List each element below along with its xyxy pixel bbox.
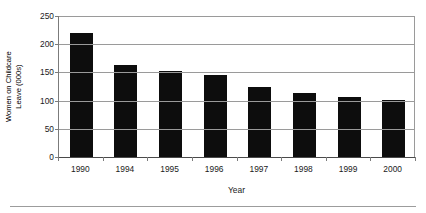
x-axis-tick-label: 1995	[147, 165, 193, 173]
x-axis-tick	[103, 157, 104, 161]
x-axis-tick-label: 1998	[280, 165, 326, 173]
y-axis-tick-label: 250	[20, 12, 54, 20]
y-axis-tick-label: 100	[20, 97, 54, 105]
y-axis-tick-label: 50	[20, 125, 54, 133]
y-axis-title-line-2: Leave (000s)	[13, 52, 23, 123]
y-axis-tick	[55, 129, 59, 130]
x-axis-tick-label: 1997	[236, 165, 282, 173]
x-axis-tick	[58, 157, 59, 161]
bar	[204, 75, 227, 157]
bar	[248, 87, 271, 157]
x-axis-tick	[192, 157, 193, 161]
bottom-divider	[10, 206, 416, 207]
bar	[114, 65, 137, 157]
x-axis-tick	[147, 157, 148, 161]
y-axis-tick	[55, 44, 59, 45]
gridline	[59, 101, 415, 102]
y-axis-tick	[55, 72, 59, 73]
x-axis-title: Year	[58, 186, 415, 194]
x-axis-tick-label: 2000	[370, 165, 416, 173]
x-axis-tick	[326, 157, 327, 161]
chart-figure: Women on Childcare Leave (000s) 05010015…	[0, 0, 426, 213]
gridline	[59, 129, 415, 130]
gridline	[59, 16, 415, 17]
y-axis-tick-label: 200	[20, 40, 54, 48]
bar	[293, 93, 316, 157]
x-axis-tick-label: 1999	[325, 165, 371, 173]
x-axis-tick-label: 1994	[102, 165, 148, 173]
x-axis-tick-label: 1990	[57, 165, 103, 173]
plot-area	[58, 16, 415, 157]
y-axis-tick	[55, 101, 59, 102]
x-axis-tick-label: 1996	[191, 165, 237, 173]
y-axis-tick-label: 0	[20, 153, 54, 161]
x-axis-tick	[237, 157, 238, 161]
y-axis-title-line-1: Women on Childcare	[3, 52, 13, 123]
bar	[338, 97, 361, 157]
bar	[159, 71, 182, 157]
gridline	[59, 72, 415, 73]
x-axis-tick	[370, 157, 371, 161]
y-axis-tick	[55, 16, 59, 17]
bar	[70, 33, 93, 157]
clipped-heading-above-chart	[22, 0, 222, 5]
bar-series	[59, 16, 415, 157]
x-axis-tick	[281, 157, 282, 161]
x-axis-tick	[415, 157, 416, 161]
gridline	[59, 44, 415, 45]
y-axis-tick-label: 150	[20, 68, 54, 76]
